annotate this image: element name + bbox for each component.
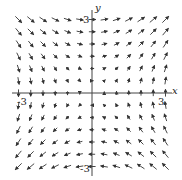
field-arrow bbox=[67, 79, 69, 82]
field-arrow bbox=[150, 164, 157, 170]
field-arrow bbox=[153, 78, 154, 84]
field-arrow bbox=[126, 140, 131, 144]
field-arrow bbox=[41, 140, 46, 145]
x-axis-label: x bbox=[172, 85, 178, 96]
field-arrow bbox=[116, 104, 118, 107]
x-pos-tick-label: 3 bbox=[158, 96, 164, 107]
field-arrow bbox=[140, 103, 141, 108]
field-arrow bbox=[163, 139, 168, 146]
field-arrow bbox=[164, 114, 166, 121]
field-arrow bbox=[163, 28, 169, 35]
field-arrow bbox=[42, 115, 45, 120]
field-arrow bbox=[152, 114, 154, 120]
field-arrow bbox=[101, 31, 107, 32]
field-arrow bbox=[138, 152, 144, 157]
field-arrow bbox=[64, 153, 70, 155]
field-arrow bbox=[65, 55, 69, 58]
field-arrow bbox=[28, 139, 33, 145]
field-arrow bbox=[101, 166, 108, 167]
field-arrow bbox=[53, 128, 57, 132]
field-arrow bbox=[40, 17, 47, 22]
field-arrow bbox=[164, 65, 166, 72]
y-neg-tick-label: -3 bbox=[80, 163, 90, 174]
field-arrow bbox=[54, 115, 57, 119]
field-arrow bbox=[65, 43, 70, 46]
field-arrow bbox=[150, 151, 156, 157]
field-arrow bbox=[150, 17, 157, 23]
field-arrow bbox=[30, 102, 31, 108]
field-arrow bbox=[114, 55, 118, 58]
field-arrow bbox=[102, 43, 107, 44]
field-arrow bbox=[40, 164, 47, 169]
field-arrow bbox=[103, 117, 106, 119]
field-arrow bbox=[127, 115, 130, 119]
field-arrow bbox=[127, 128, 131, 132]
field-arrow bbox=[55, 79, 56, 83]
field-arrow bbox=[114, 141, 119, 144]
field-arrow bbox=[139, 140, 144, 145]
field-arrow bbox=[163, 41, 168, 48]
field-arrow bbox=[64, 165, 71, 167]
field-arrow bbox=[162, 16, 168, 22]
field-arrow bbox=[79, 104, 81, 106]
field-arrow bbox=[78, 117, 81, 119]
field-arrow bbox=[150, 29, 156, 35]
field-arrow bbox=[139, 42, 144, 47]
field-arrow bbox=[128, 103, 129, 107]
field-arrow bbox=[116, 79, 118, 82]
field-arrow bbox=[138, 17, 145, 22]
field-arrow bbox=[77, 141, 82, 142]
field-arrow bbox=[103, 80, 105, 82]
field-arrow bbox=[140, 66, 143, 71]
field-arrow bbox=[40, 152, 46, 157]
field-arrow bbox=[138, 29, 144, 34]
field-arrow bbox=[103, 68, 106, 70]
x-neg-tick-label: -3 bbox=[17, 96, 27, 107]
y-axis-label: y bbox=[95, 2, 101, 13]
field-arrow bbox=[115, 116, 118, 119]
field-arrow bbox=[140, 115, 143, 120]
field-arrow bbox=[67, 104, 69, 107]
field-arrow bbox=[78, 68, 81, 70]
field-arrow bbox=[27, 164, 34, 170]
field-arrow bbox=[30, 78, 31, 84]
field-arrow bbox=[101, 154, 107, 155]
field-arrow bbox=[138, 164, 145, 169]
field-arrow bbox=[128, 79, 129, 83]
field-arrow bbox=[65, 128, 69, 131]
field-arrow bbox=[113, 31, 119, 33]
field-arrow bbox=[53, 42, 58, 46]
field-arrow bbox=[28, 41, 33, 47]
field-arrow bbox=[77, 154, 83, 155]
field-arrow bbox=[64, 18, 71, 20]
field-arrow bbox=[77, 31, 83, 32]
field-arrow bbox=[52, 165, 59, 169]
field-arrow bbox=[16, 41, 21, 48]
field-arrow bbox=[52, 152, 58, 156]
field-arrow bbox=[66, 116, 69, 119]
field-arrow bbox=[113, 18, 120, 20]
field-arrow bbox=[140, 78, 141, 83]
field-arrow bbox=[101, 19, 108, 20]
field-arrow bbox=[41, 127, 45, 132]
field-arrow bbox=[78, 129, 82, 130]
field-arrow bbox=[30, 65, 32, 71]
field-arrow bbox=[16, 151, 22, 158]
field-arrow bbox=[102, 56, 106, 57]
field-arrow bbox=[28, 151, 34, 157]
field-arrow bbox=[126, 42, 131, 46]
field-arrow bbox=[115, 67, 118, 70]
field-arrow bbox=[164, 53, 168, 60]
field-arrow bbox=[127, 54, 131, 58]
field-arrow bbox=[139, 127, 143, 132]
field-arrow bbox=[165, 102, 166, 109]
field-arrow bbox=[102, 129, 106, 130]
field-arrow bbox=[102, 141, 107, 142]
field-arrow bbox=[114, 128, 118, 131]
field-arrow bbox=[125, 18, 132, 22]
field-arrow bbox=[41, 54, 45, 59]
vector-field-plot bbox=[0, 0, 182, 180]
field-arrow bbox=[42, 78, 43, 83]
field-arrow bbox=[53, 54, 57, 58]
field-arrow bbox=[52, 30, 58, 34]
